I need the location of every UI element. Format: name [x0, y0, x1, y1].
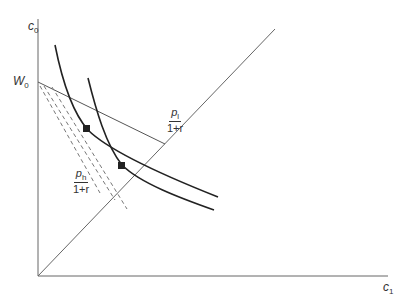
- slope-label-low-price: pl 1+r: [167, 107, 183, 135]
- slope-label-high-num: ph: [74, 168, 89, 183]
- optimum-marker-2: [118, 162, 125, 169]
- diagram-canvas: [0, 0, 410, 299]
- budget-line-high-price-4: [52, 87, 127, 209]
- y-axis-label: c0: [28, 20, 38, 35]
- endowment-label: W0: [13, 75, 29, 90]
- y-axis-label-sub: 0: [34, 26, 38, 35]
- optimum-marker-1: [83, 125, 90, 132]
- endowment-label-text: W: [13, 74, 24, 88]
- slope-low-sub: l: [177, 112, 179, 121]
- budget-line-high-price-1: [40, 86, 100, 193]
- forty-five-degree-line: [38, 29, 275, 276]
- slope-high-sub: h: [82, 173, 86, 182]
- slope-label-high-den: 1+r: [73, 183, 89, 196]
- endowment-label-sub: 0: [24, 81, 28, 90]
- slope-label-high-price: ph 1+r: [73, 168, 89, 196]
- x-axis-label: c1: [383, 281, 393, 296]
- slope-label-low-num: pl: [169, 107, 181, 122]
- budget-line-low-price: [38, 82, 165, 144]
- x-axis-label-sub: 1: [389, 287, 393, 296]
- slope-label-low-den: 1+r: [167, 122, 183, 135]
